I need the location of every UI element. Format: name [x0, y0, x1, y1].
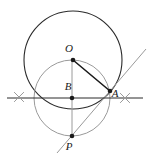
point-label-a: A [111, 87, 119, 99]
figure-canvas: O B A P [0, 0, 151, 163]
point-p [70, 134, 75, 139]
point-b [70, 96, 75, 101]
geometry-figure: O B A P [0, 0, 151, 163]
radius-segment-oa [73, 60, 110, 91]
point-label-o: O [65, 42, 73, 54]
point-label-p: P [65, 140, 73, 152]
point-label-b: B [65, 80, 72, 92]
point-o [71, 58, 76, 63]
left-tick-icon [14, 92, 24, 102]
